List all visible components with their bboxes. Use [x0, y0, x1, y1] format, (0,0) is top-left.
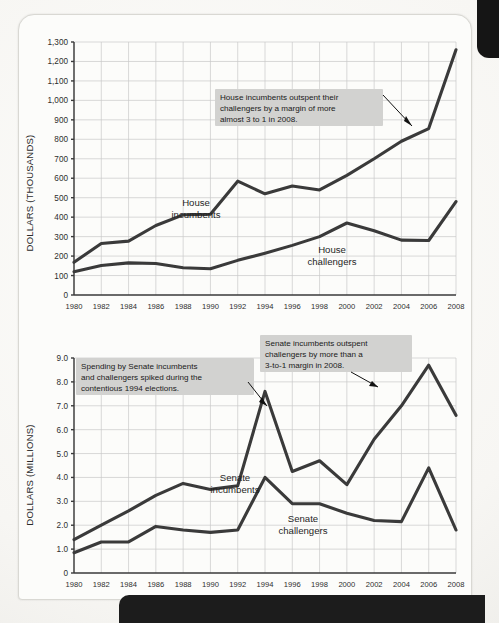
senate-right-callout-line1: Senate incumbents outspent: [265, 339, 368, 348]
y-tick-label: 300: [54, 233, 68, 242]
house-challengers-label-line2: challengers: [307, 256, 356, 267]
y-tick-label: 900: [54, 116, 68, 125]
house-y-tick-labels: 01002003004005006007008009001,0001,1001,…: [48, 38, 69, 300]
x-tick-label: 1996: [284, 302, 301, 311]
y-tick-label: 5.0: [57, 450, 69, 459]
y-tick-label: 7.0: [57, 402, 69, 411]
x-tick-label: 2006: [420, 580, 437, 589]
y-tick-label: 6.0: [57, 426, 69, 435]
x-tick-label: 1984: [120, 302, 137, 311]
y-tick-label: 4.0: [57, 473, 69, 482]
senate-challengers-label-line1: Senate: [288, 513, 318, 524]
y-tick-label: 100: [54, 272, 68, 281]
x-tick-label: 2000: [338, 302, 355, 311]
senate-y-tick-labels: 01.02.03.04.05.06.07.08.09.0: [57, 354, 69, 578]
x-tick-label: 1982: [93, 302, 110, 311]
x-tick-label: 1988: [175, 302, 192, 311]
x-tick-label: 1994: [257, 580, 274, 589]
y-tick-label: 1,300: [48, 38, 69, 47]
x-tick-label: 2002: [366, 302, 383, 311]
y-tick-label: 2.0: [57, 521, 69, 530]
x-tick-label: 1994: [257, 302, 274, 311]
house-callout-arrowhead: [404, 116, 412, 126]
y-tick-label: 9.0: [57, 354, 69, 363]
x-tick-label: 2002: [366, 580, 383, 589]
x-tick-label: 2008: [448, 302, 465, 311]
x-tick-label: 1980: [66, 580, 83, 589]
y-tick-label: 1,200: [48, 57, 69, 66]
x-tick-label: 2006: [420, 302, 437, 311]
x-tick-label: 1992: [229, 302, 246, 311]
senate-challengers-label-line2: challengers: [278, 525, 327, 536]
y-tick-label: 1.0: [57, 545, 69, 554]
x-tick-label: 1988: [175, 580, 192, 589]
page-edge-tab: [477, 0, 499, 58]
senate-incumbents-label-line2: incumbents: [210, 484, 259, 495]
x-tick-label: 1984: [120, 580, 137, 589]
house-challengers-label-line1: House: [318, 244, 346, 255]
page-bottom-banner: [119, 595, 485, 623]
x-tick-label: 1992: [229, 580, 246, 589]
y-tick-label: 3.0: [57, 497, 69, 506]
y-tick-label: 600: [54, 174, 68, 183]
x-tick-label: 1998: [311, 302, 328, 311]
x-tick-label: 1980: [66, 302, 83, 311]
x-tick-label: 1986: [147, 302, 164, 311]
x-tick-label: 1998: [311, 580, 328, 589]
y-tick-label: 800: [54, 135, 68, 144]
x-tick-label: 2004: [393, 302, 410, 311]
y-tick-label: 200: [54, 252, 68, 261]
y-tick-label: 0: [63, 569, 68, 578]
x-tick-label: 1990: [202, 580, 219, 589]
house-x-tick-labels: 1980198219841986198819901992199419961998…: [66, 302, 465, 311]
x-tick-label: 2000: [338, 580, 355, 589]
y-tick-label: 400: [54, 213, 68, 222]
senate-y-axis-title: DOLLARS (MILLIONS): [24, 424, 35, 525]
house-callout-line3: almost 3 to 1 in 2008.: [220, 115, 297, 124]
y-tick-label: 8.0: [57, 378, 69, 387]
house-y-axis-title: DOLLARS (THOUSANDS): [24, 135, 35, 252]
house-incumbents-label-line1: House: [182, 197, 210, 208]
y-tick-label: 1,000: [48, 96, 69, 105]
y-tick-label: 700: [54, 155, 68, 164]
scanned-page-background: 01002003004005006007008009001,0001,1001,…: [0, 0, 499, 623]
x-tick-label: 1996: [284, 580, 301, 589]
y-tick-label: 0: [63, 291, 68, 300]
y-tick-label: 1,100: [48, 77, 69, 86]
x-tick-label: 1982: [93, 580, 110, 589]
senate-x-tick-labels: 1980198219841986198819901992199419961998…: [66, 580, 465, 589]
senate-left-callout-line1: Spending by Senate incumbents: [81, 362, 198, 371]
x-tick-label: 1990: [202, 302, 219, 311]
house-spending-chart: 01002003004005006007008009001,0001,1001,…: [20, 18, 468, 318]
senate-right-callout-line2: challengers by more than a: [265, 350, 363, 359]
senate-chart-svg: 01.02.03.04.05.06.07.08.09.0 19801982198…: [20, 325, 468, 597]
senate-incumbents-label-line1: Senate: [220, 472, 250, 483]
house-gridlines: [74, 42, 456, 295]
y-tick-label: 500: [54, 194, 68, 203]
house-callout-line1: House incumbents outspent their: [220, 93, 339, 102]
x-tick-label: 2008: [448, 580, 465, 589]
senate-left-callout-line3: contentious 1994 elections.: [81, 384, 179, 393]
house-chart-svg: 01002003004005006007008009001,0001,1001,…: [20, 18, 468, 318]
senate-spending-chart: 01.02.03.04.05.06.07.08.09.0 19801982198…: [20, 325, 468, 597]
house-callout-line2: challengers by a margin of more: [220, 104, 336, 113]
house-incumbents-label-line2: incumbents: [171, 209, 220, 220]
senate-right-callout-line3: 3-to-1 margin in 2008.: [265, 361, 344, 370]
x-tick-label: 2004: [393, 580, 410, 589]
senate-left-callout-line2: and challengers spiked during the: [81, 373, 203, 382]
x-tick-label: 1986: [147, 580, 164, 589]
